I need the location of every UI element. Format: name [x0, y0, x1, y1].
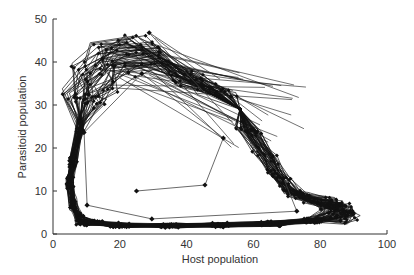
y-ticks: 01020304050: [35, 13, 57, 240]
x-axis-title: Host population: [182, 253, 258, 265]
attractor-band: [61, 33, 361, 230]
y-tick-label: 40: [35, 56, 47, 68]
x-tick-label: 60: [247, 238, 259, 250]
data-point-marker: [202, 182, 207, 187]
x-tick-label: 100: [378, 238, 396, 250]
data-point-marker: [84, 203, 89, 208]
y-tick-label: 10: [35, 185, 47, 197]
x-tick-label: 20: [114, 238, 126, 250]
data-point-marker: [116, 90, 120, 94]
x-tick-label: 40: [180, 238, 192, 250]
y-tick-label: 0: [41, 228, 47, 240]
transient-trajectory: [81, 30, 299, 221]
data-point-marker: [134, 188, 139, 193]
y-tick-label: 50: [35, 13, 47, 25]
x-ticks: 020406080100: [50, 230, 396, 250]
y-tick-label: 30: [35, 99, 47, 111]
y-tick-label: 20: [35, 142, 47, 154]
data-point-marker: [294, 209, 299, 214]
data-point-marker: [149, 216, 154, 221]
phase-plane-chart: 020406080100 01020304050 Host population…: [0, 0, 414, 275]
attractor-ray: [101, 46, 271, 141]
x-tick-label: 80: [314, 238, 326, 250]
y-axis-title: Parasitoid population: [16, 76, 28, 179]
x-tick-label: 0: [50, 238, 56, 250]
attractor-ray: [138, 37, 268, 115]
data-point-marker: [347, 202, 351, 206]
